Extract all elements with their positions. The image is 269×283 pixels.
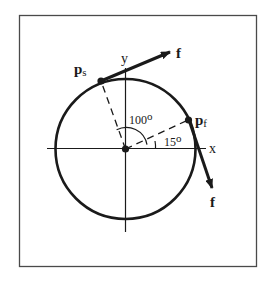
ps-label-sub: s [82,66,86,78]
angle-label-15: 15o [164,132,182,149]
point-pf [185,116,192,123]
pf-label-sub: f [203,117,207,129]
angle-arc-15 [155,141,156,149]
force-diagram: y x ps pf f f 100o 15o [0,0,269,283]
angle-100-value: 100 [129,113,147,127]
angle-15-degree: o [176,132,182,144]
ps-label-main: p [74,61,82,77]
center-point [122,145,129,152]
point-ps [97,77,104,84]
force-label-finish: f [210,194,216,210]
angle-label-100: 100o [129,110,153,127]
pf-label: pf [195,112,207,129]
angle-15-value: 15 [164,135,176,149]
force-vector-start [101,52,170,81]
force-label-start: f [176,45,182,61]
x-axis-label: x [209,141,216,156]
radius-to-ps [101,81,126,149]
ps-label: ps [74,61,87,78]
angle-100-degree: o [147,110,153,122]
pf-label-main: p [195,112,203,128]
y-axis-label: y [121,51,128,66]
